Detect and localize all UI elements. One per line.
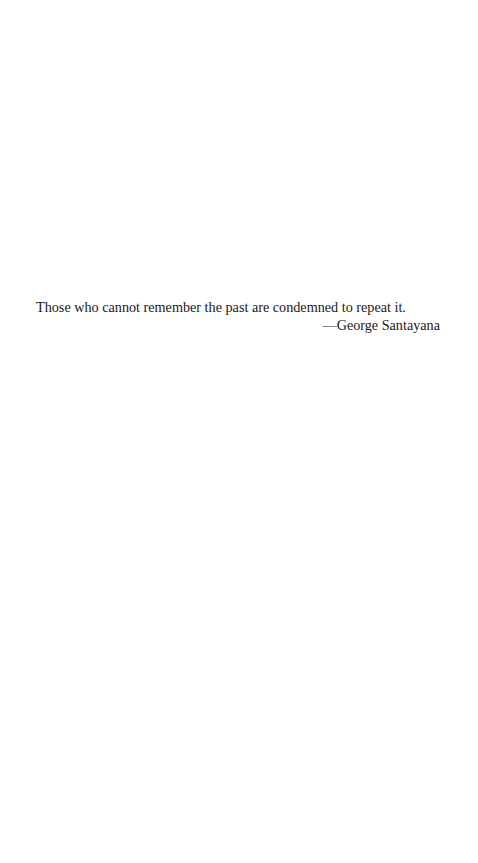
epigraph-attribution: —George Santayana: [36, 316, 440, 334]
epigraph-quote: Those who cannot remember the past are c…: [36, 298, 440, 316]
epigraph: Those who cannot remember the past are c…: [36, 298, 440, 334]
